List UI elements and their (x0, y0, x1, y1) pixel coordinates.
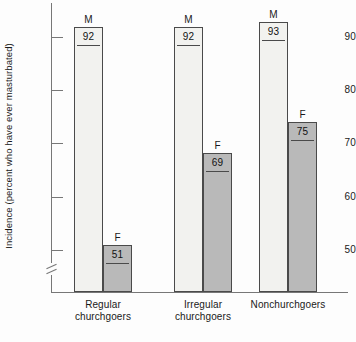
x-axis-line (51, 292, 348, 293)
bar-value-female-nonchurchgoers: 75 (289, 126, 316, 137)
series-label-f-group1: F (103, 232, 132, 243)
y-axis-line-lower (51, 275, 52, 293)
bar-value-female-irregular-churchgoers: 69 (204, 157, 231, 168)
bar-value-divider (262, 40, 285, 41)
y-tick-90 (52, 37, 63, 38)
y-tick-label-60: 60 (312, 192, 356, 202)
bar-chart: Incidence (percent who have ever masturb… (0, 0, 356, 342)
category-label-nonchurchgoers: Nonchurchgoers (243, 299, 333, 311)
y-tick-label-90: 90 (312, 32, 356, 42)
category-label-line2: churchgoers (158, 311, 248, 323)
bar-male-regular-churchgoers: 92 (74, 27, 103, 292)
bar-value-male-regular-churchgoers: 92 (75, 31, 102, 42)
bar-male-irregular-churchgoers: 92 (174, 27, 203, 292)
bar-value-divider (291, 140, 314, 141)
bar-value-male-nonchurchgoers: 93 (260, 26, 287, 37)
series-label-m-group1: M (74, 14, 103, 25)
category-label-regular-churchgoers: Regular churchgoers (58, 299, 148, 323)
bar-value-male-irregular-churchgoers: 92 (175, 31, 202, 42)
series-label-m-group2: M (174, 14, 203, 25)
y-tick-80 (52, 90, 63, 91)
bar-value-divider (177, 45, 200, 46)
bar-female-regular-churchgoers: 51 (103, 245, 132, 292)
series-label-f-group3: F (288, 109, 317, 120)
category-label-line1: Nonchurchgoers (243, 299, 333, 311)
category-label-line1: Irregular (158, 299, 248, 311)
bar-male-nonchurchgoers: 93 (259, 22, 288, 292)
category-label-irregular-churchgoers: Irregular churchgoers (158, 299, 248, 323)
category-label-line2: churchgoers (58, 311, 148, 323)
series-label-m-group3: M (259, 9, 288, 20)
axis-break-icon (46, 262, 57, 276)
y-axis-line (51, 3, 52, 263)
series-label-f-group2: F (203, 140, 232, 151)
y-tick-label-50: 50 (312, 245, 356, 255)
y-axis-title: Incidence (percent who have ever masturb… (2, 0, 16, 292)
y-tick-label-80: 80 (312, 85, 356, 95)
bar-female-nonchurchgoers: 75 (288, 122, 317, 292)
bar-value-female-regular-churchgoers: 51 (104, 249, 131, 260)
bar-female-irregular-churchgoers: 69 (203, 153, 232, 292)
y-tick-label-70: 70 (312, 138, 356, 148)
y-tick-50 (52, 250, 63, 251)
y-tick-70 (52, 143, 63, 144)
y-axis-title-text: Incidence (percent who have ever masturb… (4, 43, 14, 249)
y-tick-60 (52, 197, 63, 198)
bar-value-divider (206, 171, 229, 172)
bar-value-divider (106, 263, 129, 264)
category-label-line1: Regular (58, 299, 148, 311)
bar-value-divider (77, 45, 100, 46)
